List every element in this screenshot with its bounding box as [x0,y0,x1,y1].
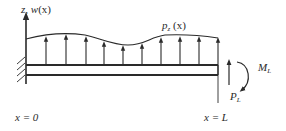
axis-label: z, w(x) [21,4,51,15]
beam [26,65,218,75]
tip-moment-label: ML [258,62,271,75]
load-label-arg: (x) [170,19,186,31]
moment-label-sub: L [267,67,271,75]
distributed-load-label: pz (x) [162,20,186,33]
force-label-sub: L [237,96,241,104]
axis-label-arg: (x) [38,3,51,15]
left-end-label: x = 0 [15,112,38,123]
moment-label-main: M [258,61,267,73]
tip-force-label: PL [230,91,241,104]
distributed-load-curve [26,34,218,45]
axis-label-main: z, w [21,3,38,15]
force-label-main: P [230,90,237,102]
tip-moment-arc [237,62,248,90]
cantilever-beam-diagram [0,0,286,131]
right-end-label: x = L [204,112,228,123]
fixed-support-hatching [17,57,25,82]
distributed-load-arrows [46,37,218,65]
